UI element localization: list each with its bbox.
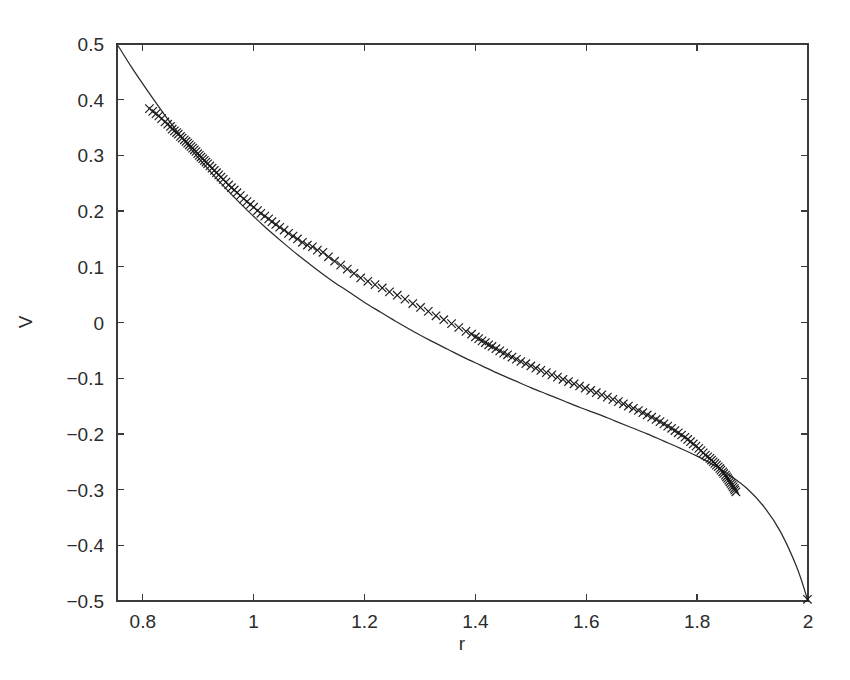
x-tick-label: 1 [248, 611, 259, 632]
data-point-layer [145, 104, 811, 603]
data-point-marker [364, 277, 372, 285]
scatter-plot: 0.811.21.41.61.82 −0.5−0.4−0.3−0.2−0.100… [0, 0, 850, 680]
x-tick-label: 1.8 [684, 611, 710, 632]
data-point-marker [401, 295, 409, 303]
x-axis-title: r [459, 633, 466, 654]
data-point-marker [424, 307, 432, 315]
data-point-marker [416, 303, 424, 311]
y-tick-label: 0.3 [78, 145, 104, 166]
data-point-marker [409, 299, 417, 307]
x-tick-label: 0.8 [130, 611, 156, 632]
y-tick-label: −0.3 [66, 480, 104, 501]
y-tick-label: −0.2 [66, 424, 104, 445]
axis-frame [117, 44, 808, 601]
data-point-marker [432, 312, 440, 320]
data-point-marker [293, 235, 301, 243]
x-tick-label: 2 [803, 611, 814, 632]
x-tick-label: 1.2 [351, 611, 377, 632]
data-point-marker [440, 316, 448, 324]
data-point-marker [284, 229, 292, 237]
x-tick-labels: 0.811.21.41.61.82 [130, 611, 814, 632]
y-tick-label: 0.2 [78, 201, 104, 222]
fit-curve-layer [117, 44, 808, 601]
y-tick-label: −0.5 [66, 591, 104, 612]
y-tick-label: −0.1 [66, 368, 104, 389]
data-point-marker [324, 253, 332, 261]
y-tick-label: 0.1 [78, 257, 104, 278]
y-tick-label: −0.4 [66, 535, 104, 556]
y-tick-label: 0.5 [78, 34, 104, 55]
data-point-marker [276, 223, 284, 231]
y-tick-label: 0 [93, 313, 104, 334]
figure-canvas: 0.811.21.41.61.82 −0.5−0.4−0.3−0.2−0.100… [0, 0, 850, 680]
data-point-marker [280, 226, 288, 234]
tick-marks [117, 44, 808, 601]
x-tick-label: 1.4 [462, 611, 489, 632]
y-tick-label: 0.4 [78, 90, 105, 111]
fit-curve [117, 44, 808, 601]
data-point-marker [371, 280, 379, 288]
data-point-marker [393, 291, 401, 299]
y-axis-title: V [15, 315, 36, 328]
data-point-marker [289, 232, 297, 240]
x-tick-label: 1.6 [573, 611, 599, 632]
y-tick-labels: −0.5−0.4−0.3−0.2−0.100.10.20.30.40.5 [66, 34, 104, 612]
